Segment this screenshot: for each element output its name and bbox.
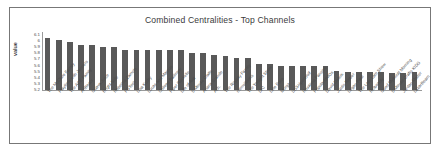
- y-tick-label: 5.5: [34, 69, 40, 73]
- y-axis-label: value: [12, 42, 18, 56]
- x-axis-tick-labels: The McClure FamilyPlaytime with JennersT…: [42, 91, 422, 146]
- y-tick-label: 5.6: [34, 63, 40, 67]
- y-axis-tick-labels: 6.165.95.85.75.65.55.45.35.2: [22, 32, 40, 90]
- y-tick-label: 5.3: [34, 82, 40, 86]
- x-tick-label: DIC: [258, 85, 266, 94]
- y-tick-label: 5.8: [34, 51, 40, 55]
- y-tick-label: 6: [38, 39, 40, 43]
- chart-figure-frame: Combined Centralities - Top Channels val…: [9, 7, 431, 144]
- y-tick-label: 5.2: [34, 88, 40, 92]
- bar: [45, 38, 51, 91]
- y-tick-label: 5.7: [34, 57, 40, 61]
- y-tick-label: 6.1: [34, 33, 40, 37]
- y-tick-label: 5.9: [34, 45, 40, 49]
- chart-title: Combined Centralities - Top Channels: [10, 15, 430, 25]
- y-tick-label: 5.4: [34, 76, 40, 80]
